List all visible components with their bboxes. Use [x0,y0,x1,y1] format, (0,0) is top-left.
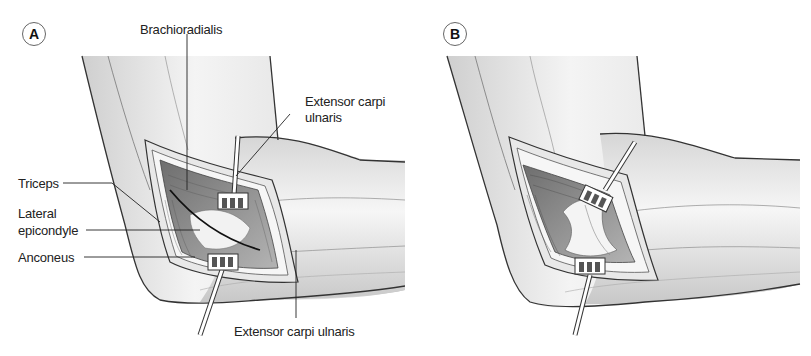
panel-badge-b: B [443,22,467,46]
label-ecu-top-line1: Extensor carpi [305,94,385,109]
label-triceps: Triceps [18,176,59,191]
label-brachioradialis: Brachioradialis [140,22,222,37]
label-ecu-bottom: Extensor carpi ulnaris [234,324,355,339]
panel-b: B [405,0,811,356]
elbow-illustration-a [0,0,405,356]
panel-a: A Brachioradialis Extensor carpi ulnaris… [0,0,405,356]
label-ecu-top-line2: ulnaris [305,110,342,125]
elbow-illustration-b [405,0,811,356]
label-lateral-line2: epicondyle [18,223,78,238]
label-lateral-line1: Lateral [18,206,56,221]
label-anconeus: Anconeus [18,250,74,265]
panel-badge-a: A [22,22,46,46]
